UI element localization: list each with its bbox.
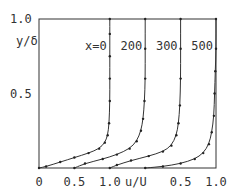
data-point — [148, 155, 150, 157]
x-tick-label: 1.0 — [99, 175, 121, 189]
data-point — [175, 134, 177, 136]
x-tick-label: 1.0 — [205, 175, 227, 189]
data-point — [144, 18, 146, 20]
data-point — [144, 48, 146, 50]
data-point — [109, 167, 111, 169]
data-point — [202, 152, 204, 154]
series-label: 500 — [191, 39, 213, 53]
x-tick-label: 0.5 — [64, 175, 86, 189]
data-point — [84, 162, 86, 164]
data-point — [211, 131, 213, 133]
data-point — [116, 164, 118, 166]
data-point — [45, 165, 47, 167]
data-point — [98, 147, 100, 149]
series-label: 200 — [121, 39, 143, 53]
series-label: x=0 — [85, 39, 107, 53]
series-label: 300 — [156, 39, 178, 53]
data-point — [59, 161, 61, 163]
y-tick-label-1: 1.0 — [10, 12, 32, 26]
data-point — [194, 158, 196, 160]
data-point — [136, 140, 138, 142]
data-point — [109, 33, 111, 35]
data-point — [177, 122, 179, 124]
data-point — [162, 150, 164, 152]
x-tick-label: 0 — [35, 175, 42, 189]
data-point — [179, 77, 181, 79]
data-point — [179, 18, 181, 20]
data-point — [179, 104, 181, 106]
data-point — [213, 92, 215, 94]
data-point — [179, 48, 181, 50]
data-point — [208, 143, 210, 145]
data-point — [144, 77, 146, 79]
x-axis-label: u/U — [125, 175, 147, 189]
data-point — [142, 118, 144, 120]
y-tick-label-0.5: 0.5 — [10, 87, 32, 101]
data-point — [144, 167, 146, 169]
y-axis-label: y/δ — [16, 34, 38, 48]
data-point — [130, 159, 132, 161]
data-point — [214, 70, 216, 72]
data-point — [38, 167, 40, 169]
x-tick-label: 0.5 — [170, 175, 192, 189]
data-point — [109, 100, 111, 102]
data-point — [179, 162, 181, 164]
data-point — [213, 115, 215, 117]
data-point — [106, 134, 108, 136]
data-point — [108, 122, 110, 124]
data-point — [140, 130, 142, 132]
data-point — [215, 48, 217, 50]
chart: 1.0 0.5 y/δ 00.51.00.51.0 u/U x=02003005… — [0, 0, 235, 193]
data-point — [73, 156, 75, 158]
data-point — [109, 18, 111, 20]
data-point — [143, 100, 145, 102]
data-point — [109, 77, 111, 79]
data-point — [102, 158, 104, 160]
data-point — [87, 152, 89, 154]
data-point — [162, 165, 164, 167]
data-point — [170, 144, 172, 146]
data-point — [116, 153, 118, 155]
data-point — [109, 55, 111, 57]
data-point — [104, 141, 106, 143]
data-point — [215, 18, 217, 20]
data-point — [128, 147, 130, 149]
data-point — [73, 167, 75, 169]
